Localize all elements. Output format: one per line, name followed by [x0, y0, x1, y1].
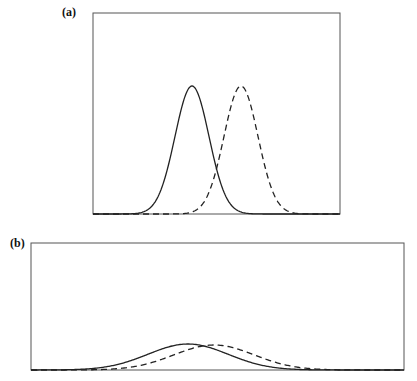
panel-b-frame	[31, 243, 404, 370]
panel-a-dashed-gaussian	[93, 86, 340, 214]
panel-b-solid-gaussian	[31, 344, 404, 370]
panel-a-solid-gaussian	[93, 86, 340, 214]
panel-b-dashed-gaussian	[31, 345, 404, 370]
panel-a-frame	[93, 13, 340, 214]
figure-canvas	[0, 0, 417, 381]
